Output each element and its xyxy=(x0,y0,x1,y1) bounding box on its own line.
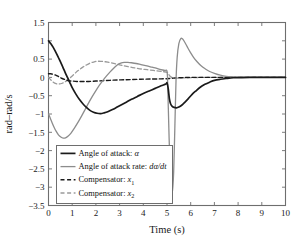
x-tick-label: 4 xyxy=(141,208,146,218)
x-tick-label: 5 xyxy=(165,208,170,218)
x-tick-label: 8 xyxy=(236,208,241,218)
x-tick-label: 2 xyxy=(94,208,99,218)
y-tick-label: −2.5 xyxy=(28,164,45,174)
y-tick-label: −1 xyxy=(35,109,45,119)
legend-label-2: Angle of attack rate: dα/dt xyxy=(79,162,168,171)
chart-legend: Angle of attack: αAngle of attack rate: … xyxy=(57,146,173,204)
y-axis-label: rad–rad/s xyxy=(3,94,14,133)
x-tick-label: 0 xyxy=(46,208,51,218)
figure-container: 012345678910 1.510.50−0.5−1−1.5−2−2.5−3−… xyxy=(0,0,305,242)
y-tick-label: −3 xyxy=(35,182,45,192)
y-tick-label: 0 xyxy=(40,73,45,83)
y-tick-label: 0.5 xyxy=(33,54,45,64)
legend-label-1: Angle of attack: α xyxy=(79,149,140,158)
x-tick-labels: 012345678910 xyxy=(46,208,290,218)
y-tick-label: 1 xyxy=(40,36,45,46)
x-tick-label: 10 xyxy=(281,208,291,218)
x-tick-label: 7 xyxy=(212,208,217,218)
x-axis-label: Time (s) xyxy=(149,224,185,236)
y-tick-label: −0.5 xyxy=(28,91,45,101)
x-tick-label: 1 xyxy=(70,208,75,218)
x-tick-label: 9 xyxy=(260,208,265,218)
y-tick-label: −1.5 xyxy=(28,128,45,138)
y-tick-label: −2 xyxy=(35,146,45,156)
chart-canvas: 012345678910 1.510.50−0.5−1−1.5−2−2.5−3−… xyxy=(0,0,305,242)
y-tick-labels: 1.510.50−0.5−1−1.5−2−2.5−3−3.5 xyxy=(28,18,45,211)
y-tick-label: 1.5 xyxy=(33,18,45,28)
x-tick-label: 3 xyxy=(117,208,122,218)
x-tick-label: 6 xyxy=(188,208,193,218)
y-tick-label: −3.5 xyxy=(28,201,45,211)
